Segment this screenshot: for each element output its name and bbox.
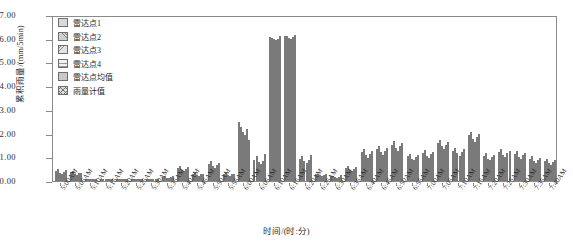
legend-swatch-icon: [58, 59, 68, 68]
legend-label: 雷达点3: [73, 44, 101, 55]
legend-item: 雷达点2: [58, 30, 150, 44]
y-tick-mark: [46, 111, 52, 112]
y-tick-mark: [46, 63, 52, 64]
y-tick-label: 1.00: [0, 152, 16, 162]
y-tick-label: 3.00: [0, 105, 16, 115]
legend-label: 雷达点2: [73, 31, 101, 42]
y-tick-label: 4.00: [0, 81, 16, 91]
legend-label: 雷达点4: [73, 58, 101, 69]
legend-item: 雷达点3: [58, 43, 150, 57]
legend: 雷达点1雷达点2雷达点3雷达点4雷达点均值雨量计值: [58, 16, 150, 97]
legend-swatch-icon: [58, 72, 68, 81]
legend-label: 雷达点均值: [73, 71, 113, 82]
rainfall-bar-chart: 累积雨量/(mm/5min) 5:00AM5:05AM5:10AM5:15AM5…: [0, 0, 573, 243]
legend-item: 雨量计值: [58, 84, 150, 98]
legend-label: 雨量计值: [73, 85, 105, 96]
legend-swatch-icon: [58, 86, 68, 95]
legend-swatch-icon: [58, 32, 68, 41]
legend-swatch-icon: [58, 18, 68, 27]
legend-swatch-icon: [58, 45, 68, 54]
y-tick-mark: [46, 40, 52, 41]
y-tick-mark: [46, 16, 52, 17]
x-axis: 5:00AM5:05AM5:10AM5:15AM5:20AM5:25AM5:30…: [52, 183, 557, 227]
legend-item: 雷达点1: [58, 16, 150, 30]
bar: [294, 35, 296, 181]
y-tick-mark: [46, 87, 52, 88]
y-tick-label: 5.00: [0, 57, 16, 67]
y-tick-label: 6.00: [0, 34, 16, 44]
y-tick-label: 2.00: [0, 129, 16, 139]
legend-label: 雷达点1: [73, 17, 101, 28]
y-tick-label: 0.00: [0, 176, 16, 186]
bar: [279, 36, 281, 181]
y-tick-mark: [46, 135, 52, 136]
x-axis-title: 时间/(时:分): [0, 224, 573, 236]
y-tick-mark: [46, 182, 52, 183]
legend-item: 雷达点4: [58, 57, 150, 71]
y-tick-label: 7.00: [0, 10, 16, 20]
legend-item: 雷达点均值: [58, 70, 150, 84]
y-tick-mark: [46, 158, 52, 159]
